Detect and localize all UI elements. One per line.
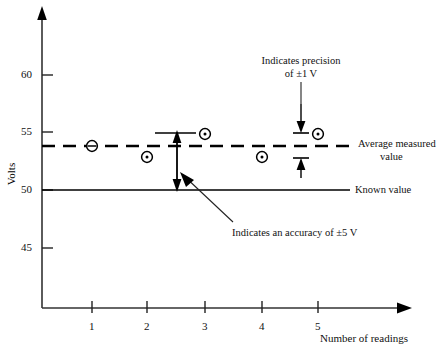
y-tick-label-50: 50 <box>21 183 32 196</box>
x-axis <box>42 303 412 314</box>
average-measured-label-line1: Average measured <box>358 138 436 150</box>
data-point-5 <box>313 129 324 140</box>
measurement-accuracy-precision-chart <box>0 0 447 351</box>
x-axis-ticks <box>92 301 318 313</box>
average-measured-label-line2: value <box>380 151 403 163</box>
y-axis-title: Volts <box>5 151 17 197</box>
precision-arrow-down <box>297 121 306 133</box>
y-axis-ticks <box>42 75 53 248</box>
x-tick-label-1: 1 <box>89 320 95 333</box>
y-tick-label-60: 60 <box>21 68 32 81</box>
data-points <box>87 129 324 163</box>
precision-annotation-line2: of ±1 V <box>251 68 351 80</box>
x-axis-title: Number of readings <box>320 332 408 345</box>
accuracy-callout-arrowhead <box>180 172 194 187</box>
precision-annotation-line1: Indicates precision <box>251 55 351 67</box>
known-value-label: Known value <box>355 184 411 196</box>
data-point-4 <box>257 152 268 163</box>
y-tick-label-45: 45 <box>21 241 32 254</box>
accuracy-arrow-up <box>173 130 182 143</box>
data-point-2 <box>142 152 153 163</box>
precision-arrow-up <box>297 158 306 170</box>
y-tick-label-55: 55 <box>21 125 32 138</box>
x-tick-label-3: 3 <box>202 320 208 333</box>
data-point-1 <box>87 141 98 152</box>
y-axis-arrowhead <box>37 6 47 20</box>
accuracy-annotation: Indicates an accuracy of ±5 V <box>232 227 357 239</box>
x-tick-label-4: 4 <box>259 320 265 333</box>
data-point-3 <box>200 129 211 140</box>
x-tick-label-2: 2 <box>144 320 150 333</box>
precision-indicator <box>293 104 309 178</box>
y-axis <box>37 6 47 308</box>
x-axis-arrowhead <box>397 303 412 314</box>
